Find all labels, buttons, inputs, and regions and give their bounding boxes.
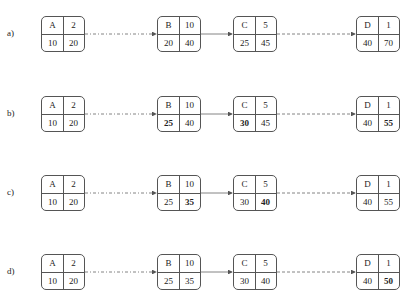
activity-duration: 5 [255,97,276,114]
activity-name: A [42,176,63,193]
activity-duration: 2 [63,97,84,114]
earliest-finish: 40 [255,194,276,211]
earliest-finish: 35 [179,273,200,290]
activity-duration: 10 [179,255,200,272]
earliest-start: 40 [357,35,378,52]
activity-node-d: D14055 [356,175,400,211]
earliest-finish: 20 [63,194,84,211]
earliest-start: 20 [158,35,179,52]
activity-duration: 10 [179,176,200,193]
activity-name: B [158,17,179,34]
row-label: a) [7,28,14,38]
activity-name: D [357,97,378,114]
activity-name: B [158,97,179,114]
earliest-finish: 70 [378,35,399,52]
activity-name: A [42,255,63,272]
activity-node-b: B102540 [157,96,201,132]
diagram-canvas: a)A21020B102040C52545D14070b)A21020B1025… [0,0,416,301]
earliest-finish: 40 [179,35,200,52]
activity-duration: 1 [378,97,399,114]
activity-node-b: B102040 [157,16,201,52]
earliest-start: 30 [234,273,255,290]
activity-name: C [234,17,255,34]
earliest-start: 10 [42,194,63,211]
earliest-start: 40 [357,115,378,132]
earliest-start: 25 [158,273,179,290]
activity-node-c: C53040 [233,254,277,290]
activity-node-c: C53045 [233,96,277,132]
earliest-finish: 50 [378,273,399,290]
earliest-finish: 20 [63,115,84,132]
earliest-finish: 55 [378,115,399,132]
activity-node-a: A21020 [41,96,85,132]
activity-duration: 2 [63,176,84,193]
earliest-start: 30 [234,115,255,132]
activity-name: A [42,17,63,34]
activity-duration: 10 [179,97,200,114]
activity-name: C [234,176,255,193]
activity-name: B [158,176,179,193]
activity-node-a: A21020 [41,16,85,52]
earliest-finish: 20 [63,273,84,290]
activity-duration: 1 [378,255,399,272]
earliest-start: 25 [158,115,179,132]
activity-node-d: D14070 [356,16,400,52]
activity-node-a: A21020 [41,175,85,211]
activity-duration: 5 [255,176,276,193]
row-label: b) [7,108,15,118]
activity-name: D [357,17,378,34]
activity-duration: 5 [255,255,276,272]
activity-node-c: C52545 [233,16,277,52]
activity-duration: 5 [255,17,276,34]
earliest-start: 25 [234,35,255,52]
activity-node-c: C53040 [233,175,277,211]
activity-duration: 1 [378,17,399,34]
earliest-finish: 55 [378,194,399,211]
earliest-finish: 45 [255,115,276,132]
earliest-finish: 45 [255,35,276,52]
row-label: d) [7,266,15,276]
activity-name: C [234,97,255,114]
row-label: c) [7,187,14,197]
activity-duration: 1 [378,176,399,193]
activity-name: D [357,176,378,193]
activity-node-b: B102535 [157,175,201,211]
activity-node-b: B102535 [157,254,201,290]
earliest-start: 30 [234,194,255,211]
activity-name: A [42,97,63,114]
activity-duration: 2 [63,17,84,34]
earliest-finish: 40 [255,273,276,290]
earliest-start: 10 [42,35,63,52]
earliest-start: 10 [42,115,63,132]
earliest-start: 40 [357,194,378,211]
activity-name: B [158,255,179,272]
activity-name: D [357,255,378,272]
earliest-finish: 35 [179,194,200,211]
earliest-finish: 40 [179,115,200,132]
activity-duration: 2 [63,255,84,272]
earliest-start: 40 [357,273,378,290]
activity-node-d: D14055 [356,96,400,132]
earliest-start: 10 [42,273,63,290]
activity-name: C [234,255,255,272]
earliest-start: 25 [158,194,179,211]
earliest-finish: 20 [63,35,84,52]
activity-node-a: A21020 [41,254,85,290]
activity-node-d: D14050 [356,254,400,290]
activity-duration: 10 [179,17,200,34]
